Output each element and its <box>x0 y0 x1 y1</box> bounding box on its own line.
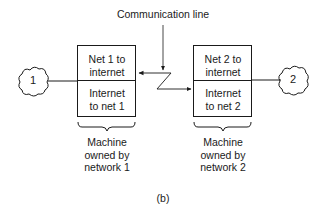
owner-2-line-3: network 2 <box>188 161 258 174</box>
communication-line-label: Communication line <box>113 8 213 21</box>
machine-1-owner-label: Machine owned by network 1 <box>72 136 142 174</box>
owner-1-line-3: network 1 <box>72 161 142 174</box>
machine-1-bottom-label: Internet to net 1 <box>78 87 136 112</box>
owner-1-line-1: Machine <box>72 136 142 149</box>
brace-machine-2 <box>194 122 251 131</box>
cloud-network-1-label: 1 <box>27 74 39 86</box>
owner-1-line-2: owned by <box>72 149 142 162</box>
machine-1-top-label: Net 1 to internet <box>78 53 136 78</box>
brace-machine-1 <box>78 122 135 131</box>
machine-1-bottom-line-1: Internet <box>78 87 136 100</box>
machine-2-top-line-2: internet <box>194 66 252 79</box>
cloud-network-2-label: 2 <box>287 73 299 85</box>
machine-2-owner-label: Machine owned by network 2 <box>188 136 258 174</box>
machine-2-bottom-line-1: Internet <box>194 87 252 100</box>
figure-caption: (b) <box>143 192 183 205</box>
communication-line-zigzag <box>157 73 171 89</box>
machine-2-top-label: Net 2 to internet <box>194 53 252 78</box>
machine-2-bottom-line-2: to net 2 <box>194 100 252 113</box>
owner-2-line-1: Machine <box>188 136 258 149</box>
machine-1-top-line-1: Net 1 to <box>78 53 136 66</box>
machine-1-top-line-2: internet <box>78 66 136 79</box>
diagram-canvas <box>0 0 320 213</box>
machine-1-bottom-line-2: to net 1 <box>78 100 136 113</box>
machine-2-bottom-label: Internet to net 2 <box>194 87 252 112</box>
machine-2-top-line-1: Net 2 to <box>194 53 252 66</box>
owner-2-line-2: owned by <box>188 149 258 162</box>
